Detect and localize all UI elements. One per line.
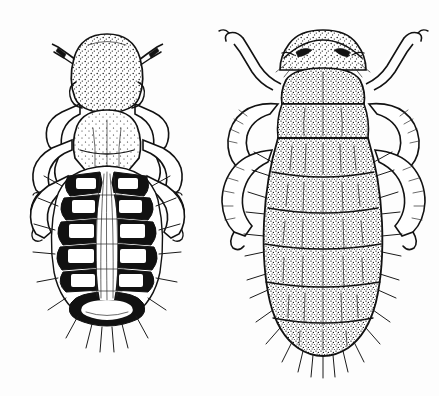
right-louse-thorax	[278, 68, 369, 138]
left-louse-thorax	[73, 110, 140, 170]
illustration-canvas	[0, 0, 439, 396]
lice-illustration-figure: Two lice specimens, dorsal view Head/bod…	[0, 0, 439, 396]
left-louse-head	[70, 34, 145, 113]
